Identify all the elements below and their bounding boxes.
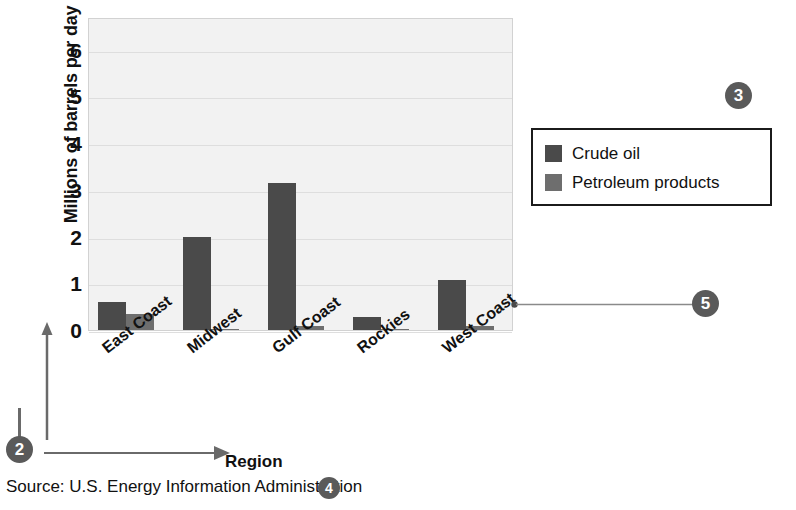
gridline bbox=[89, 239, 512, 240]
y-axis-tick-label: 3 bbox=[56, 180, 82, 201]
y-axis-tick-label: 6 bbox=[56, 40, 82, 61]
gridline bbox=[89, 145, 512, 146]
chart-figure: Millions of barrels per day 0123456 East… bbox=[0, 0, 796, 510]
bar-crude-oil-gulf-coast bbox=[268, 183, 296, 330]
legend-item-crude-oil: Crude oil bbox=[545, 139, 770, 168]
gridline bbox=[89, 192, 512, 193]
y-axis-tick-label: 2 bbox=[56, 227, 82, 248]
plot-area bbox=[88, 18, 513, 331]
legend-label-crude-oil: Crude oil bbox=[572, 144, 640, 164]
legend-item-petroleum-products: Petroleum products bbox=[545, 168, 770, 197]
y-axis-tick-labels: 0123456 bbox=[52, 18, 82, 331]
callout-5-leader-line bbox=[511, 301, 695, 308]
callout-2-badge: 2 bbox=[6, 436, 33, 463]
bar-crude-oil-west-coast bbox=[438, 280, 466, 330]
callout-3-badge: 3 bbox=[725, 82, 752, 109]
y-axis-tick-label: 5 bbox=[56, 86, 82, 107]
legend-swatch-petroleum-products-icon bbox=[545, 174, 562, 191]
bar-crude-oil-midwest bbox=[183, 237, 211, 330]
y-axis-tick-label: 0 bbox=[56, 320, 82, 341]
callout-4-badge: 4 bbox=[318, 477, 340, 499]
legend-box: Crude oil Petroleum products bbox=[531, 128, 772, 206]
gridline bbox=[89, 52, 512, 53]
legend-swatch-crude-oil-icon bbox=[545, 145, 562, 162]
y-axis-tick-label: 1 bbox=[56, 273, 82, 294]
y-axis-tick-label: 4 bbox=[56, 133, 82, 154]
callout-2-arrow bbox=[44, 435, 234, 471]
callout-5-badge: 5 bbox=[692, 290, 719, 317]
legend-label-petroleum-products: Petroleum products bbox=[572, 173, 719, 193]
gridline bbox=[89, 98, 512, 99]
y-axis-direction-arrow bbox=[40, 320, 54, 440]
source-note: Source: U.S. Energy Information Administ… bbox=[6, 477, 362, 497]
